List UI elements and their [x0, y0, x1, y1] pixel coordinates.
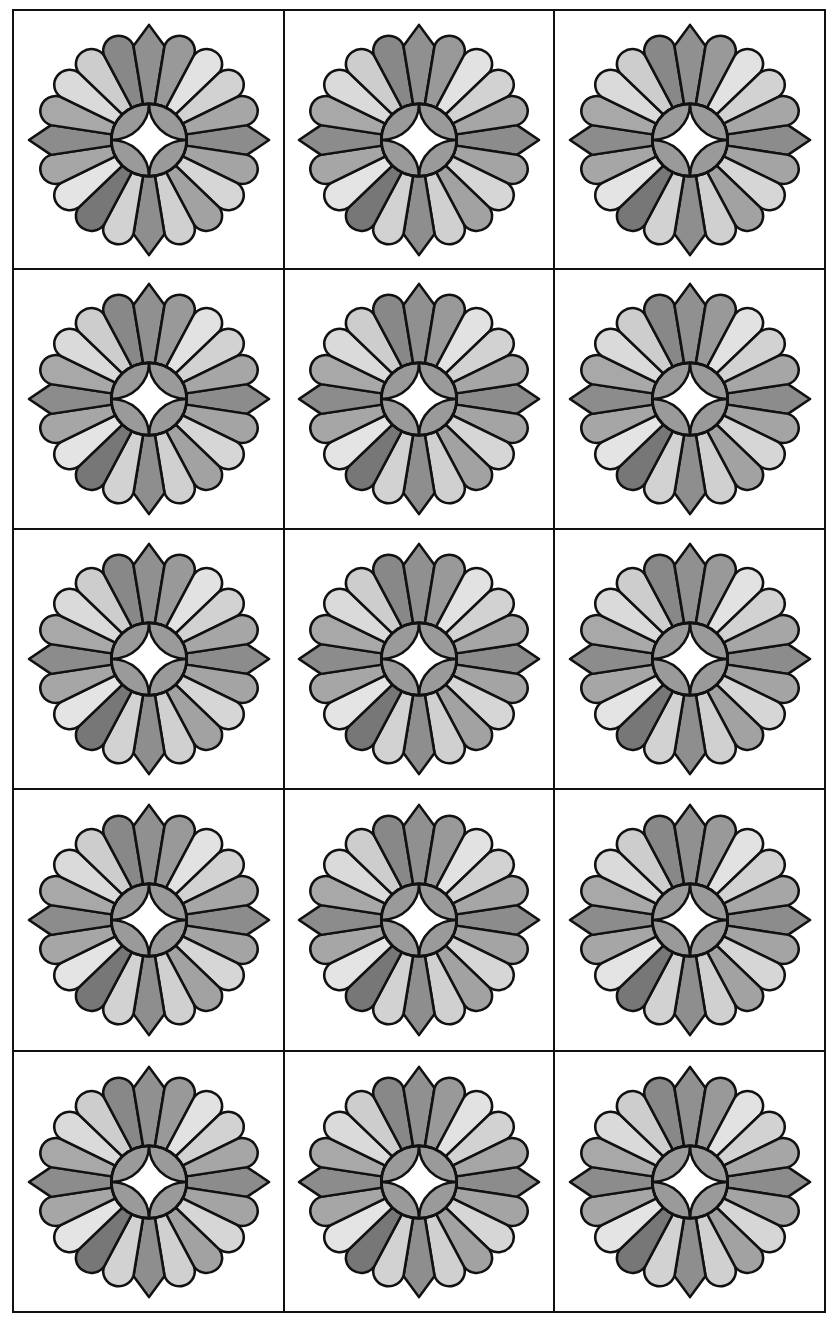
dresden-plate-flower: [296, 802, 542, 1038]
quilt-block-r2-c3: [555, 270, 824, 530]
dresden-plate-flower: [567, 802, 813, 1038]
dresden-plate-flower: [567, 22, 813, 258]
dresden-plate-flower: [296, 281, 542, 517]
quilt-block-r3-c3: [555, 530, 824, 790]
dresden-plate-flower: [296, 1064, 542, 1300]
quilt-block-r3-c2: [285, 530, 555, 790]
dresden-plate-flower: [567, 1064, 813, 1300]
quilt-block-r5-c1: [14, 1052, 285, 1311]
dresden-plate-flower: [296, 541, 542, 777]
quilt-block-r4-c2: [285, 790, 555, 1052]
quilt-block-r1-c1: [14, 11, 285, 270]
dresden-plate-flower: [26, 281, 272, 517]
quilt-block-r2-c1: [14, 270, 285, 530]
quilt-block-r1-c2: [285, 11, 555, 270]
quilt-block-r1-c3: [555, 11, 824, 270]
dresden-plate-flower: [26, 1064, 272, 1300]
dresden-plate-flower: [296, 22, 542, 258]
quilt-block-r2-c2: [285, 270, 555, 530]
dresden-plate-flower: [26, 22, 272, 258]
quilt-block-r3-c1: [14, 530, 285, 790]
quilt-block-r5-c3: [555, 1052, 824, 1311]
dresden-plate-flower: [26, 802, 272, 1038]
quilt-grid: [12, 9, 826, 1313]
dresden-plate-flower: [26, 541, 272, 777]
dresden-plate-flower: [567, 281, 813, 517]
quilt-block-r5-c2: [285, 1052, 555, 1311]
quilt-block-r4-c3: [555, 790, 824, 1052]
quilt-block-r4-c1: [14, 790, 285, 1052]
dresden-plate-flower: [567, 541, 813, 777]
